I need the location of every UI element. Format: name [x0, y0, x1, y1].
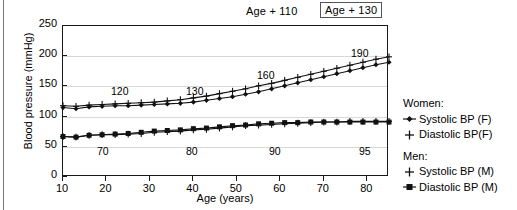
- data-point-square: [126, 131, 131, 136]
- data-point-cross: [216, 90, 222, 97]
- plot-area: 12013016019070809095: [62, 25, 388, 176]
- square-line-marker-icon: [403, 181, 416, 193]
- x-tick-mark: [149, 176, 150, 181]
- cross-marker-icon: [403, 166, 416, 178]
- y-tick-mark: [62, 116, 67, 117]
- x-tick-mark: [192, 176, 193, 181]
- y-tick-label: 150: [17, 77, 57, 89]
- data-point-square: [373, 120, 378, 125]
- data-point-square: [152, 129, 157, 134]
- data-point-diamond: [269, 86, 274, 91]
- data-point-square: [74, 135, 79, 140]
- x-tick-label: 30: [134, 182, 164, 194]
- data-point-cross: [295, 74, 301, 81]
- data-point-cross: [243, 85, 249, 92]
- plus-marker-icon: [403, 129, 416, 141]
- y-tick-label: 50: [17, 138, 57, 150]
- legend-item[interactable]: Diastolic BP (M): [403, 180, 498, 196]
- data-point-diamond: [282, 83, 287, 88]
- data-point-diamond: [243, 92, 248, 97]
- y-tick-mark: [62, 146, 67, 147]
- page-edge-rule: [3, 0, 4, 210]
- data-point-diamond: [321, 74, 326, 79]
- data-point-square: [191, 126, 196, 131]
- y-tick-label: 200: [17, 47, 57, 59]
- legend-item[interactable]: Systolic BP (M): [403, 164, 498, 180]
- data-point-cross: [177, 96, 183, 103]
- chart-annotation: 130: [186, 85, 204, 97]
- data-point-square: [87, 133, 92, 138]
- data-point-cross: [256, 82, 262, 89]
- y-tick-mark: [62, 25, 67, 26]
- data-point-diamond: [347, 68, 352, 73]
- y-tick-mark: [62, 85, 67, 86]
- data-point-diamond: [295, 80, 300, 85]
- data-point-square: [347, 120, 352, 125]
- data-point-square: [360, 120, 365, 125]
- data-point-square: [295, 120, 300, 125]
- legend-item[interactable]: Diastolic BP(F): [403, 127, 498, 143]
- data-point-square: [256, 121, 261, 126]
- data-point-diamond: [373, 62, 378, 67]
- data-point-square: [321, 120, 326, 125]
- x-tick-label: 20: [90, 182, 120, 194]
- legend-item[interactable]: Systolic BP (F): [403, 112, 498, 128]
- data-point-square: [243, 123, 248, 128]
- data-point-diamond: [308, 77, 313, 82]
- x-tick-label: 80: [351, 182, 381, 194]
- legend-item-label: Diastolic BP (M): [419, 180, 498, 196]
- x-tick-label: 40: [177, 182, 207, 194]
- data-point-square: [217, 124, 222, 129]
- data-point-square: [100, 132, 105, 137]
- x-tick-mark: [323, 176, 324, 181]
- chart-annotation: 90: [269, 145, 281, 157]
- data-point-diamond: [360, 65, 365, 70]
- series-line: [63, 57, 389, 107]
- chart-annotation: 80: [186, 145, 198, 157]
- data-point-square: [139, 130, 144, 135]
- data-point-cross: [308, 71, 314, 78]
- x-tick-mark: [236, 176, 237, 181]
- data-point-diamond: [256, 89, 261, 94]
- data-point-square: [269, 121, 274, 126]
- data-point-square: [387, 120, 392, 125]
- chart-annotation: 95: [359, 145, 371, 157]
- y-tick-label: 100: [17, 108, 57, 120]
- data-point-diamond: [230, 94, 235, 99]
- legend-item-label: Systolic BP (F): [419, 112, 492, 128]
- annotation-age-plus-110: Age + 110: [246, 4, 297, 18]
- data-point-square: [113, 132, 118, 137]
- data-point-square: [334, 120, 339, 125]
- data-point-cross: [203, 93, 209, 100]
- data-point-square: [178, 127, 183, 132]
- diamond-line-marker-icon: [403, 113, 416, 125]
- x-tick-mark: [62, 176, 63, 181]
- chart-annotation: 120: [111, 85, 129, 97]
- chart-annotation: 190: [351, 47, 369, 59]
- y-tick-label: 0: [17, 168, 57, 180]
- data-point-cross: [347, 62, 353, 69]
- x-tick-mark: [105, 176, 106, 181]
- x-tick-label: 50: [221, 182, 251, 194]
- legend-item-label: Systolic BP (M): [419, 164, 494, 180]
- x-tick-mark: [366, 176, 367, 181]
- data-point-diamond: [334, 71, 339, 76]
- legend-group-heading: Women:: [403, 96, 498, 112]
- data-point-square: [61, 134, 66, 139]
- data-point-cross: [360, 59, 366, 66]
- y-tick-label: 250: [17, 17, 57, 29]
- data-point-square: [282, 120, 287, 125]
- data-point-square: [204, 126, 209, 131]
- blood-pressure-figure: Age + 110 Age + 130 Blood pressure (mmHg…: [0, 0, 517, 210]
- data-point-cross: [269, 80, 275, 87]
- data-point-cross: [386, 53, 392, 60]
- data-point-cross: [373, 56, 379, 63]
- y-tick-mark: [62, 55, 67, 56]
- data-point-diamond: [386, 60, 391, 65]
- data-point-cross: [334, 65, 340, 72]
- data-point-cross: [230, 88, 236, 95]
- data-point-cross: [282, 77, 288, 84]
- data-point-square: [165, 128, 170, 133]
- chart-annotation: 160: [257, 69, 275, 81]
- data-series-layer: [63, 26, 389, 177]
